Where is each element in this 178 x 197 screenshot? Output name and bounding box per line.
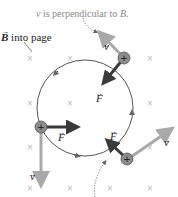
field-mark-icon: × (67, 98, 73, 109)
plus-icon: + (121, 52, 127, 64)
field-mark-icon: × (147, 183, 153, 194)
svg-text:→: → (28, 170, 36, 179)
svg-text:→: → (109, 127, 117, 136)
svg-text:→: → (162, 136, 170, 145)
field-mark-icon: × (27, 183, 33, 194)
field-label-leader (24, 42, 32, 52)
field-mark-icon: × (147, 53, 153, 64)
svg-text:→: → (57, 128, 65, 137)
plus-icon: + (124, 153, 130, 165)
orbit-path (37, 60, 133, 156)
charge-bottom-right: + (121, 153, 133, 165)
field-mark-icon: × (107, 183, 113, 194)
charge-top-right: + (118, 52, 130, 64)
magnetic-force-diagram: × × × × × × × × × × × × + + + (0, 0, 178, 197)
field-mark-icon: × (27, 142, 33, 153)
field-mark-icon: × (27, 53, 33, 64)
field-mark-icon: × (147, 98, 153, 109)
field-mark-icon: × (67, 183, 73, 194)
svg-text:→: → (95, 89, 103, 98)
orbit-direction-icon (55, 71, 58, 74)
plus-icon: + (38, 121, 44, 133)
bottom-leader (94, 162, 105, 197)
field-mark-icon: × (27, 98, 33, 109)
perpendicular-caption: v is perpendicular to B. (36, 8, 128, 19)
charge-left: + (35, 121, 47, 133)
caption-leader (83, 18, 96, 32)
field-vector-arrow-icon: → (1, 27, 9, 36)
svg-text:→: → (102, 41, 110, 50)
